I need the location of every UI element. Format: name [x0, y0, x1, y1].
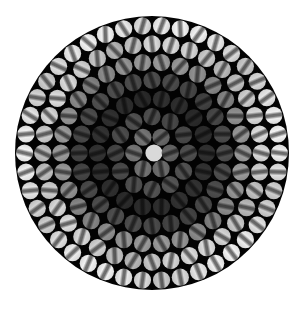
- fiber: [41, 107, 58, 124]
- fiber: [253, 144, 270, 161]
- fiber: [227, 74, 244, 91]
- fiber: [180, 207, 197, 224]
- fiber: [198, 50, 215, 67]
- fiber: [246, 182, 263, 199]
- fiber: [246, 107, 263, 124]
- fiber: [60, 215, 77, 232]
- fiber: [92, 196, 109, 213]
- fiber: [73, 61, 90, 78]
- fiber: [73, 163, 90, 180]
- fiber: [143, 181, 160, 198]
- fiber: [50, 58, 67, 75]
- fiber: [115, 20, 132, 37]
- fiber: [214, 163, 231, 180]
- fiber: [115, 58, 132, 75]
- fiber: [92, 163, 109, 180]
- fiber: [204, 212, 221, 229]
- fiber: [89, 50, 106, 67]
- fiber: [249, 216, 266, 233]
- fiber: [92, 93, 109, 110]
- fiber: [143, 217, 160, 234]
- fiber: [134, 235, 151, 252]
- fiber: [171, 192, 188, 209]
- fiber: [64, 244, 81, 261]
- fiber: [143, 35, 160, 52]
- fiber: [73, 126, 90, 143]
- fiber: [162, 176, 179, 193]
- fiber: [180, 81, 197, 98]
- fiber: [175, 126, 192, 143]
- fiber: [60, 181, 77, 198]
- fiber: [54, 125, 71, 142]
- fiber: [195, 93, 212, 110]
- fiber: [185, 180, 202, 197]
- fiber: [162, 252, 179, 269]
- fiber: [38, 73, 55, 90]
- fiber: [125, 176, 142, 193]
- fiber: [80, 34, 97, 51]
- fiber: [206, 108, 223, 125]
- fiber: [80, 255, 97, 272]
- fiber: [223, 244, 240, 261]
- fiber: [50, 231, 67, 248]
- fiber: [134, 129, 151, 146]
- fiber: [124, 252, 141, 269]
- fiber: [153, 160, 170, 177]
- fiber: [106, 247, 123, 264]
- fiber: [49, 199, 66, 216]
- fiber: [125, 215, 142, 232]
- fiber: [181, 247, 198, 264]
- fiber: [36, 125, 53, 142]
- fiber: [125, 144, 142, 161]
- fiber: [207, 34, 224, 51]
- fiber: [271, 144, 288, 161]
- fiber: [172, 269, 189, 286]
- fiber: [83, 77, 100, 94]
- fiber: [198, 144, 215, 161]
- fiber: [216, 144, 233, 161]
- fiber: [153, 198, 170, 215]
- fiber: [143, 108, 160, 125]
- fiber: [172, 58, 189, 75]
- fiber: [49, 90, 66, 107]
- fiber: [107, 81, 124, 98]
- fiber: [162, 37, 179, 54]
- fiber: [198, 239, 215, 256]
- fiber: [70, 91, 87, 108]
- fiber: [134, 54, 151, 71]
- fiber: [153, 129, 170, 146]
- fiber: [143, 254, 160, 271]
- fiber: [60, 107, 77, 124]
- fiber: [134, 17, 151, 34]
- fiber: [125, 113, 142, 130]
- fiber: [89, 239, 106, 256]
- fiber: [185, 109, 202, 126]
- fiber: [89, 144, 106, 161]
- fiber: [38, 216, 55, 233]
- fiber: [29, 200, 46, 217]
- fiber-bundle-image: [0, 0, 299, 309]
- fiber: [227, 107, 244, 124]
- fiber: [112, 126, 129, 143]
- fiber: [134, 271, 151, 288]
- fiber: [16, 144, 33, 161]
- fiber: [172, 20, 189, 37]
- fiber: [269, 163, 286, 180]
- fiber: [251, 163, 268, 180]
- fiber: [153, 17, 170, 34]
- fiber: [162, 74, 179, 91]
- fiber: [195, 163, 212, 180]
- fiber: [238, 90, 255, 107]
- fiber: [195, 196, 212, 213]
- fiber: [153, 54, 170, 71]
- fiber: [134, 160, 151, 177]
- fiber: [41, 182, 58, 199]
- fiber: [238, 199, 255, 216]
- fiber: [134, 91, 151, 108]
- fiber: [269, 125, 286, 142]
- fiber: [70, 198, 87, 215]
- fiber: [251, 125, 268, 142]
- fiber: [172, 231, 189, 248]
- fiber: [36, 163, 53, 180]
- fiber: [180, 144, 197, 161]
